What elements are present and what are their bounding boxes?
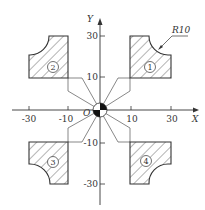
x-tick-label: 30 (166, 114, 178, 124)
x-tick-label: -10 (59, 114, 74, 124)
origin-label: O (83, 108, 91, 118)
origin-symbol (93, 103, 107, 117)
y-tick-label: -30 (84, 179, 99, 189)
y-tick-label: 10 (87, 72, 99, 82)
y-tick-label: -10 (84, 138, 99, 148)
x-tick-label: -30 (22, 114, 37, 124)
part-2-label: 2 (50, 63, 55, 72)
x-axis-label: X (191, 114, 199, 124)
part-3-label: 3 (50, 158, 55, 167)
part-4-label: 4 (143, 157, 148, 166)
part-2-shape (29, 36, 68, 78)
x-tick-label: 10 (126, 114, 138, 124)
radius-annotation: R10 (158, 25, 191, 50)
coordinate-diagram: 1 2 3 4 R10 Y X O -30 -10 10 30 30 10 -1… (0, 0, 205, 210)
y-axis-label: Y (87, 14, 94, 24)
y-tick-label: 30 (87, 31, 99, 41)
radius-label: R10 (171, 25, 191, 35)
part-1-label: 1 (147, 63, 152, 72)
